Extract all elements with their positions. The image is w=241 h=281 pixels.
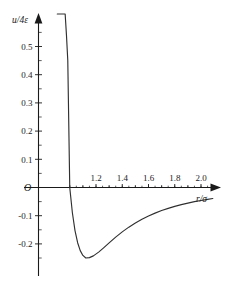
y-tick-label: 0.4	[21, 70, 33, 80]
y-axis-arrowhead	[35, 13, 43, 24]
y-axis-group	[35, 13, 43, 276]
x-tick-label: 1.8	[169, 173, 181, 183]
y-tick-label: 0.5	[21, 42, 33, 52]
y-tick-labels: 0.50.40.30.20.1-0.1-0.2	[18, 42, 33, 249]
lennard-jones-potential-figure: 0.50.40.30.20.1-0.1-0.2 1.21.41.61.82.0 …	[0, 0, 241, 281]
x-tick-label: 1.6	[143, 173, 155, 183]
x-tick-label: 1.4	[117, 173, 129, 183]
x-axis-arrowhead	[211, 184, 222, 192]
y-axis-title: u/4ε	[12, 15, 28, 25]
x-tick-labels: 1.21.41.61.82.0	[90, 173, 207, 183]
lennard-jones-curve	[57, 14, 213, 258]
y-tick-label: -0.1	[18, 211, 32, 221]
y-tick-label: 0.3	[21, 98, 33, 108]
x-axis-title: r/σ	[196, 194, 207, 204]
x-tick-label: 1.2	[90, 173, 101, 183]
y-tick-label: 0.2	[21, 126, 32, 136]
x-tick-label: 2.0	[195, 173, 207, 183]
y-tick-label: 0.1	[21, 155, 32, 165]
y-tick-label: -0.2	[18, 239, 32, 249]
origin-label: O	[24, 182, 31, 193]
plot-canvas: 0.50.40.30.20.1-0.1-0.2 1.21.41.61.82.0 …	[0, 0, 241, 281]
